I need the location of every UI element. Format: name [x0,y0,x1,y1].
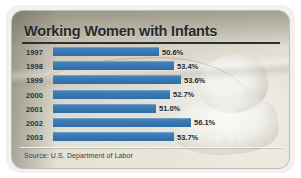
bar-value-label: 50.6% [162,48,183,57]
chart-card: Working Women with Infants 199750.6%1998… [12,11,289,168]
bar-row: 200353.7% [12,131,289,145]
bar-value-label: 53.4% [177,62,198,71]
bar-value-label: 56.1% [194,118,215,127]
bar-category-label: 2000 [26,91,54,100]
bar-plot-area: 199750.6%199853.4%199953.6%200052.7%2001… [12,46,289,149]
bar-category-label: 1999 [26,76,54,85]
bar [53,118,191,127]
chart-content: Working Women with Infants 199750.6%1998… [12,11,289,168]
bar-value-label: 53.7% [177,133,198,142]
chart-title: Working Women with Infants [24,23,217,39]
bar-category-label: 2003 [26,133,54,142]
bar-row: 199853.4% [12,60,289,74]
bar-category-label: 2001 [26,105,54,114]
title-divider [22,42,280,44]
chart-screenshot: Working Women with Infants 199750.6%1998… [0,0,301,178]
bar-category-label: 2002 [26,119,54,128]
bar-row: 199750.6% [12,46,289,60]
bar [53,61,174,70]
bar-row: 200151.0% [12,103,289,117]
bar [53,132,174,141]
bar-value-label: 52.7% [173,90,194,99]
bar [53,104,156,113]
bar-row: 200052.7% [12,89,289,103]
bar [53,47,159,56]
bar [53,75,181,84]
bar-row: 200256.1% [12,117,289,131]
source-divider [20,147,282,148]
bar-category-label: 1998 [26,62,54,71]
bar-row: 199953.6% [12,74,289,88]
source-note: Source: U.S. Department of Labor [24,152,133,159]
bar-category-label: 1997 [26,48,54,57]
bar-value-label: 51.0% [159,104,180,113]
bar-value-label: 53.6% [184,76,205,85]
bar [53,90,170,99]
